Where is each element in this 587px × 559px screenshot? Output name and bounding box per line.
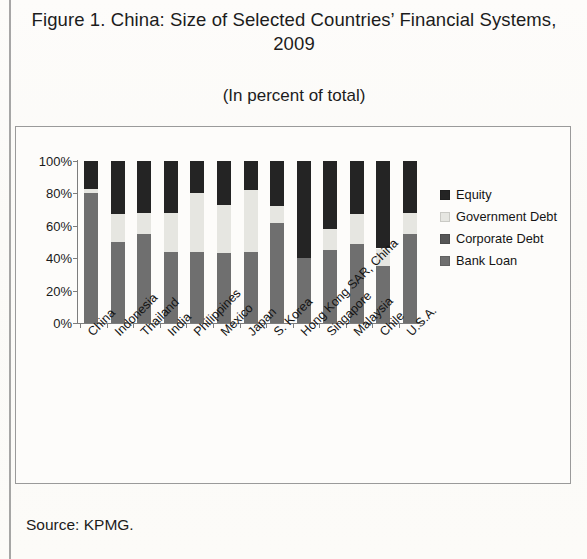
stacked-bar	[403, 161, 417, 323]
bar-segment	[350, 161, 364, 214]
bar-segment	[111, 214, 125, 242]
bar-segment	[217, 161, 231, 205]
bar-segment	[403, 161, 417, 213]
plot-wrapper: 0%20%40%60%80%100% ChinaIndonesiaThailan…	[16, 127, 572, 485]
legend-swatch-icon	[440, 190, 450, 200]
source-note: Source: KPMG.	[26, 516, 134, 534]
bar-segment	[323, 161, 337, 229]
figure-container: Figure 1. China: Size of Selected Countr…	[0, 0, 587, 559]
legend-swatch-icon	[440, 256, 450, 266]
legend-swatch-icon	[440, 212, 450, 222]
bar-segment	[84, 189, 98, 194]
y-axis-tick-label: 80%	[46, 186, 72, 201]
legend-item-equity: Equity	[440, 187, 568, 202]
chart-frame: 0%20%40%60%80%100% ChinaIndonesiaThailan…	[15, 126, 571, 484]
legend-item-government_debt: Government Debt	[440, 209, 568, 224]
bar-segment	[164, 213, 178, 252]
legend-item-label: Government Debt	[456, 209, 557, 224]
bar-segment	[297, 161, 311, 258]
bar-segment	[403, 234, 417, 323]
bar-segment	[403, 213, 417, 234]
y-axis-tick-label: 20%	[46, 283, 72, 298]
bar-segment	[217, 205, 231, 254]
bar-segment	[137, 213, 151, 234]
legend-item-bank_loan: Bank Loan	[440, 253, 568, 268]
bar-segment	[270, 161, 284, 206]
y-axis-tick-label: 40%	[46, 251, 72, 266]
stacked-bar	[84, 161, 98, 323]
bar-segment	[190, 193, 204, 251]
stacked-bar	[190, 161, 204, 323]
y-axis-tick-label: 100%	[39, 154, 72, 169]
legend-item-label: Bank Loan	[456, 253, 517, 268]
chart-legend: EquityGovernment DebtCorporate DebtBank …	[440, 187, 568, 275]
bar-segment	[350, 214, 364, 243]
bar-segment	[270, 206, 284, 222]
legend-item-label: Equity	[456, 187, 492, 202]
bar-segment	[164, 161, 178, 213]
bar-segment	[137, 161, 151, 213]
stacked-bar	[111, 161, 125, 323]
bar-segment	[244, 190, 258, 252]
bar-segment	[376, 161, 390, 248]
legend-swatch-icon	[440, 234, 450, 244]
bar-segment	[244, 161, 258, 190]
legend-item-label: Corporate Debt	[456, 231, 544, 246]
bar-segment	[84, 161, 98, 189]
x-axis-category-labels: ChinaIndonesiaThailandIndiaPhilippinesMe…	[78, 325, 438, 475]
bar-segment	[323, 229, 337, 250]
stacked-bar	[244, 161, 258, 323]
y-axis-tick-label: 0%	[53, 316, 72, 331]
y-axis-tick-label: 60%	[46, 218, 72, 233]
figure-title: Figure 1. China: Size of Selected Countr…	[24, 8, 564, 57]
y-axis-labels: 0%20%40%60%80%100%	[20, 127, 72, 485]
bar-segment	[190, 252, 204, 323]
legend-item-corporate_debt: Corporate Debt	[440, 231, 568, 246]
figure-subtitle: (In percent of total)	[24, 86, 564, 106]
bar-segment	[111, 161, 125, 214]
y-axis-tick	[73, 323, 78, 324]
stacked-bar	[270, 161, 284, 323]
bar-segment	[190, 161, 204, 193]
bar-segment	[84, 193, 98, 323]
